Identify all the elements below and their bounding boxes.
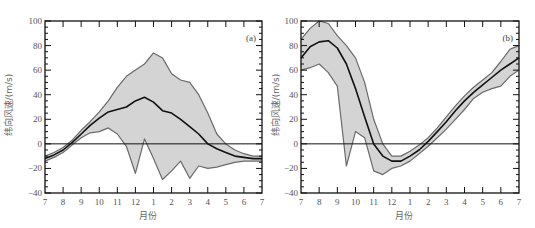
y-tick-label: 40 [33,90,43,100]
x-tick-label: 5 [224,197,229,207]
y-tick-label: 100 [29,16,43,26]
x-tick-label: 11 [113,197,122,207]
y-tick-label: −40 [28,188,43,198]
x-tick-label: 1 [151,197,156,207]
x-tick-label: 10 [351,197,361,207]
y-tick-label: −20 [28,163,43,173]
y-tick-label: 40 [289,90,299,100]
y-tick-label: −20 [284,163,299,173]
x-tick-label: 11 [369,197,378,207]
y-tick-label: 80 [289,41,299,51]
y-axis-title: 纬向风速/(m/s) [270,74,281,137]
x-tick-label: 4 [206,197,211,207]
y-tick-label: 60 [289,65,299,75]
y-tick-label: 100 [285,16,299,26]
panel-b: −40−200204060801007891011121234567月份纬向风速… [270,16,522,221]
x-tick-label: 12 [387,197,396,207]
y-tick-label: 20 [33,114,43,124]
y-tick-label: 0 [38,139,43,149]
x-tick-label: 1 [408,197,413,207]
x-tick-label: 4 [462,197,467,207]
x-axis-title: 月份 [395,210,413,221]
range-band [45,53,262,180]
y-tick-label: 20 [289,114,299,124]
x-tick-label: 3 [187,197,192,207]
x-tick-label: 7 [517,197,522,207]
x-tick-label: 8 [317,197,322,207]
x-tick-label: 7 [299,197,304,207]
x-tick-label: 5 [480,197,485,207]
x-tick-label: 12 [131,197,140,207]
x-tick-label: 2 [169,197,174,207]
chart-figure: −40−200204060801007891011121234567月份纬向风速… [0,0,535,228]
x-tick-label: 8 [61,197,66,207]
x-tick-label: 7 [43,197,48,207]
x-tick-label: 9 [335,197,340,207]
panel-a: −40−200204060801007891011121234567月份纬向风速… [3,16,265,221]
x-tick-label: 3 [444,197,449,207]
x-tick-label: 7 [260,197,265,207]
y-tick-label: 60 [33,65,43,75]
x-tick-label: 9 [79,197,84,207]
x-tick-label: 6 [499,197,504,207]
y-tick-label: −40 [284,188,299,198]
x-tick-label: 2 [426,197,431,207]
x-tick-label: 10 [95,197,105,207]
y-tick-label: 0 [294,139,299,149]
panel-label: (a) [246,33,256,43]
y-axis-title: 纬向风速/(m/s) [3,74,14,137]
panel-label: (b) [503,33,514,43]
x-tick-label: 6 [242,197,247,207]
x-axis-title: 月份 [139,210,157,221]
y-tick-label: 80 [33,41,43,51]
